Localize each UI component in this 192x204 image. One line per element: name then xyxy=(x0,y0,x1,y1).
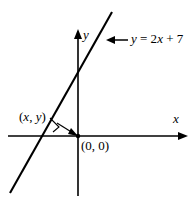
y-axis-arrowhead-icon xyxy=(74,29,82,39)
equation-constant: + 7 xyxy=(163,31,183,46)
x-axis-label: x xyxy=(173,112,179,125)
equation-pointer-head xyxy=(106,36,115,44)
equation-label: y = 2x + 7 xyxy=(131,32,183,45)
origin-point-marker xyxy=(76,134,80,138)
point-xy-label: (x, y) xyxy=(19,110,46,123)
y-axis-label: y xyxy=(83,28,89,41)
x-axis-arrowhead-icon xyxy=(178,132,188,140)
perpendicular-segment xyxy=(57,123,78,136)
equation-operator: = 2 xyxy=(137,31,157,46)
origin-label: (0, 0) xyxy=(81,139,109,152)
plotted-line xyxy=(10,12,112,193)
equation-pointer-arrow-icon xyxy=(106,36,128,44)
y-axis xyxy=(74,29,82,196)
point-paren-close: ) xyxy=(41,109,45,124)
line-graph-figure: x y y = 2x + 7 (x, y) (0, 0) xyxy=(0,0,192,204)
right-angle-marker-icon xyxy=(50,118,59,132)
